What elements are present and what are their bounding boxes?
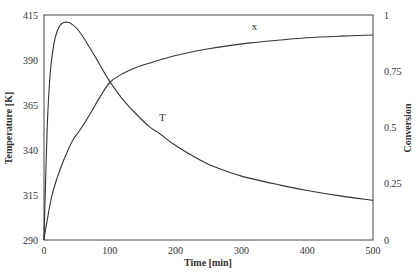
y-left-axis-label: Temperature [K] xyxy=(3,92,14,165)
y-left-tick-label: 365 xyxy=(23,100,38,111)
series-label-T: T xyxy=(159,111,166,123)
y-left-tick-label: 415 xyxy=(23,10,38,21)
y-right-tick-label: 0.5 xyxy=(384,122,397,133)
y-left-tick-label: 390 xyxy=(23,55,38,66)
y-right-tick-label: 0 xyxy=(384,235,389,246)
x-tick-label: 200 xyxy=(168,245,183,256)
y-right-tick-label: 1 xyxy=(384,10,389,21)
x-axis-label: Time [min] xyxy=(184,257,232,268)
y-left-tick-label: 290 xyxy=(23,235,38,246)
x-tick-label: 500 xyxy=(366,245,381,256)
chart: 0100200300400500 290315340365390415 00.2… xyxy=(0,0,420,274)
series-labels: Tx xyxy=(159,20,258,123)
series-label-x: x xyxy=(252,20,258,32)
x-axis-ticks: 0100200300400500 xyxy=(42,245,381,256)
y-right-tick-label: 0.25 xyxy=(384,178,402,189)
y-left-axis-ticks: 290315340365390415 xyxy=(23,10,38,246)
x-tick-label: 100 xyxy=(102,245,117,256)
series-lines xyxy=(44,22,373,240)
x-tick-label: 0 xyxy=(42,245,47,256)
series-line-T xyxy=(44,22,373,240)
y-right-axis-label: Conversion xyxy=(402,103,413,152)
series-line-x xyxy=(44,35,373,240)
y-right-axis-ticks: 00.250.50.751 xyxy=(384,10,402,246)
x-tick-label: 400 xyxy=(300,245,315,256)
y-left-tick-label: 315 xyxy=(23,190,38,201)
y-right-tick-label: 0.75 xyxy=(384,66,402,77)
y-left-tick-label: 340 xyxy=(23,145,38,156)
x-tick-label: 300 xyxy=(234,245,249,256)
